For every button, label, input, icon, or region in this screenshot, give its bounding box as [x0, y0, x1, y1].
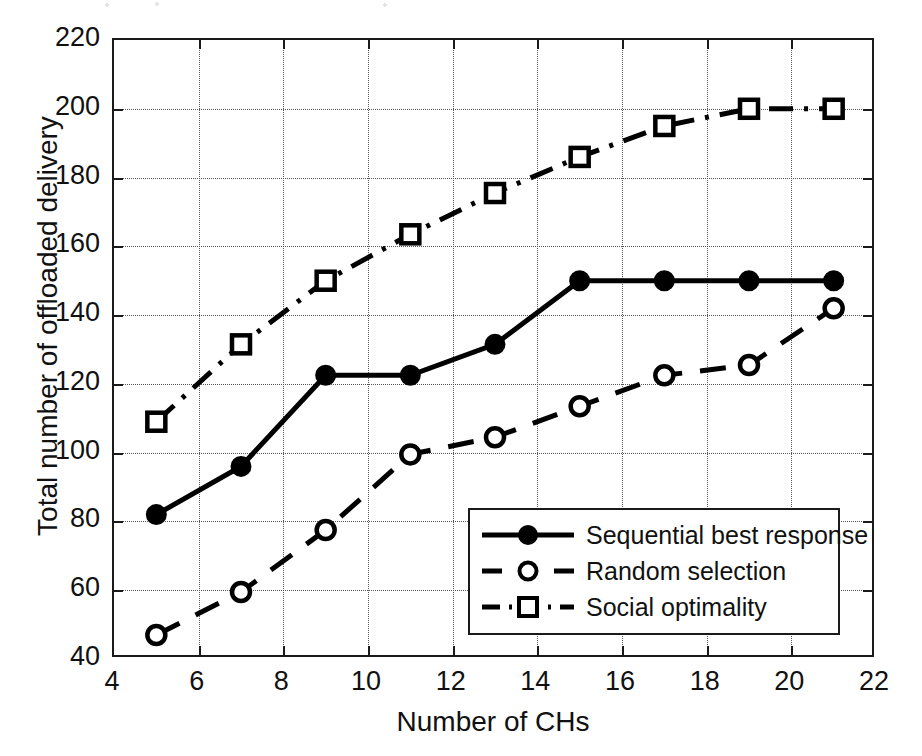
data-point-marker: [401, 366, 419, 384]
data-point-marker: [317, 366, 335, 384]
x-tick-label: 6: [189, 668, 204, 695]
x-tick-label: 8: [274, 668, 289, 695]
dashdot-line-open-square-icon: [480, 592, 576, 622]
legend-label: Random selection: [586, 559, 786, 584]
data-point-marker: [317, 521, 335, 539]
data-point-marker: [317, 272, 335, 290]
data-point-marker: [571, 272, 589, 290]
data-point-marker: [232, 335, 250, 353]
y-axis-title: Total number of offloaded delivery: [32, 46, 64, 606]
legend-label: Sequential best response: [586, 523, 868, 548]
data-point-marker: [825, 100, 843, 118]
data-point-marker: [232, 457, 250, 475]
series-line: [156, 109, 833, 422]
data-point-marker: [486, 184, 504, 202]
solid-line-filled-circle-icon: [480, 520, 576, 550]
x-tick-label: 18: [690, 668, 720, 695]
legend-item-social-optimality: Social optimality: [480, 589, 828, 625]
chart-figure: 406080100120140160180200220 468101214161…: [0, 0, 922, 756]
x-tick-label: 12: [436, 668, 466, 695]
data-point-marker: [486, 335, 504, 353]
x-tick-label: 10: [351, 668, 381, 695]
series-social-optimality: [147, 100, 842, 431]
x-tick-label: 4: [104, 668, 119, 695]
data-point-marker: [825, 272, 843, 290]
data-point-marker: [147, 626, 165, 644]
series-sequential-best-response: [147, 272, 842, 524]
x-axis-title: Number of CHs: [112, 706, 874, 738]
y-tick-label: 40: [10, 643, 100, 670]
data-point-marker: [147, 506, 165, 524]
data-point-marker: [401, 445, 419, 463]
series-line: [156, 281, 833, 515]
data-point-marker: [740, 100, 758, 118]
legend-item-sequential-best-response: Sequential best response: [480, 517, 828, 553]
data-point-marker: [655, 366, 673, 384]
data-point-marker: [401, 225, 419, 243]
legend-item-random-selection: Random selection: [480, 553, 828, 589]
data-point-marker: [571, 397, 589, 415]
data-point-marker: [655, 272, 673, 290]
data-point-marker: [655, 117, 673, 135]
x-tick-label: 14: [520, 668, 550, 695]
x-tick-label: 22: [859, 668, 889, 695]
data-point-marker: [825, 299, 843, 317]
x-tick-label: 20: [774, 668, 804, 695]
data-point-marker: [571, 148, 589, 166]
data-point-marker: [486, 428, 504, 446]
legend-label: Social optimality: [586, 595, 767, 620]
data-point-marker: [147, 413, 165, 431]
data-point-marker: [740, 272, 758, 290]
data-point-marker: [232, 583, 250, 601]
x-tick-label: 16: [605, 668, 635, 695]
chart-legend: Sequential best response Random selectio…: [468, 508, 840, 635]
dashed-line-open-circle-icon: [480, 556, 576, 586]
scan-artifact: [95, 0, 425, 10]
data-point-marker: [740, 356, 758, 374]
